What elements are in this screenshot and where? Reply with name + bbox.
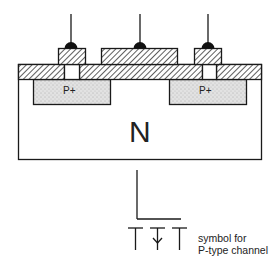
source-electrode [59,49,86,65]
drain-contact-window [203,65,217,80]
gate-lead [134,14,147,49]
caption-line-2: P-type channel [198,244,268,256]
substrate-n-label: N [129,117,151,147]
drain-p-plus-label: P+ [199,86,212,96]
source-p-plus-label: P+ [63,86,76,96]
oxide-layer-center [80,65,203,80]
caption-line-1: symbol for [198,232,268,244]
source-contact-window [65,65,80,80]
source-lead [65,14,78,49]
drain-electrode [195,49,222,65]
gate-electrode [102,49,178,65]
oxide-layer-left [19,65,65,80]
p-channel-symbol [128,170,187,250]
drain-lead [202,14,215,49]
symbol-caption: symbol for P-type channel [198,232,268,256]
oxide-layer-right [217,65,262,80]
